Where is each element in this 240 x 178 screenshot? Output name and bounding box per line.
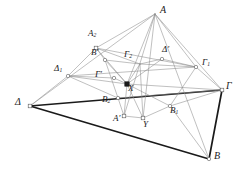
edge-G1-G	[196, 67, 222, 90]
point-marker-Dprime	[160, 57, 163, 60]
point-label-Gprime: Γ′	[95, 70, 102, 79]
point-marker-G	[220, 88, 224, 92]
point-marker-D1	[66, 74, 69, 77]
point-label-G1: Γ1	[202, 58, 210, 68]
edge-D1-G1	[68, 67, 196, 76]
point-marker-D	[28, 104, 32, 108]
edge-Aprime-Y	[124, 116, 143, 118]
edge-G2-X	[127, 64, 140, 84]
point-label-B2: B2	[102, 95, 110, 105]
geometry-figure: AΑ2B′Δ′Γ2Γ1Δ1Γ′XΔΓB2B1Α′YB	[0, 0, 240, 178]
point-label-D1: Δ1	[54, 64, 62, 74]
point-label-A: A	[160, 5, 166, 15]
point-label-Bprime: B′	[91, 48, 98, 57]
point-label-X: X	[128, 84, 134, 93]
point-marker-B2	[116, 96, 119, 99]
edge-D-D1	[30, 76, 68, 106]
point-label-D: Δ	[15, 97, 21, 107]
point-marker-Gprime	[112, 76, 115, 79]
edge-G1-B1	[170, 67, 196, 106]
point-marker-Bprime	[103, 58, 106, 61]
point-label-G: Γ	[226, 81, 232, 91]
point-label-G2: Γ2	[124, 50, 132, 60]
point-label-Dprime: Δ′	[162, 45, 169, 54]
figure-canvas	[0, 0, 240, 178]
point-marker-B	[207, 157, 210, 160]
point-label-Aprime: Α′	[113, 114, 120, 123]
point-marker-G1	[194, 65, 197, 68]
point-label-B: B	[214, 151, 220, 161]
edge-B-G	[209, 90, 222, 159]
point-marker-Aprime	[122, 114, 126, 118]
point-label-B1: B1	[170, 106, 178, 116]
point-label-Y: Y	[143, 120, 148, 129]
point-label-A2: Α2	[88, 29, 96, 39]
edge-Y-B1	[143, 106, 170, 118]
